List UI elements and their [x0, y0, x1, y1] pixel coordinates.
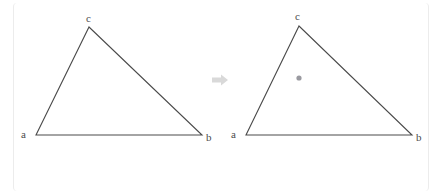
- left-triangle-label-b: b: [206, 132, 212, 143]
- right-triangle-group: [246, 26, 412, 135]
- arrow-right-icon: [212, 75, 228, 86]
- right-triangle-label-c: c: [295, 11, 300, 22]
- left-triangle-label-c: c: [86, 13, 91, 24]
- figure-canvas: [0, 0, 442, 195]
- transform-arrow-icon: [212, 75, 228, 86]
- left-triangle-shape: [36, 27, 202, 135]
- left-triangle-group: [36, 27, 202, 135]
- right-triangle-label-a: a: [231, 129, 236, 140]
- right-triangle-label-b: b: [416, 132, 422, 143]
- right-triangle-shape: [246, 26, 412, 135]
- centroid-point-marker: [296, 75, 301, 80]
- left-triangle-label-a: a: [21, 129, 26, 140]
